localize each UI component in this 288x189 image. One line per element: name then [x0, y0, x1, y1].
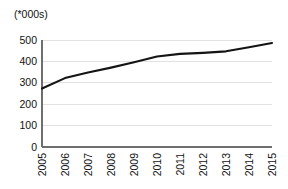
- y-axis-tick-label: 100: [19, 119, 37, 131]
- x-axis-tick-label: 2008: [105, 153, 117, 177]
- y-axis-tick-labels: 0100200300400500: [19, 34, 37, 153]
- x-axis-tick-label: 2014: [243, 153, 255, 177]
- x-axis-tick-label: 2015: [266, 153, 278, 177]
- y-axis-tick-label: 200: [19, 98, 37, 110]
- series-line-path: [42, 43, 272, 89]
- x-axis-tick-label: 2010: [151, 153, 163, 177]
- x-axis-tick-label: 2009: [128, 153, 140, 177]
- x-axis-tick-label: 2011: [174, 153, 186, 176]
- x-axis-tick-label: 2005: [36, 153, 48, 177]
- line-chart-plot: 0100200300400500 20052006200720082009201…: [0, 0, 288, 189]
- y-axis-tick-label: 0: [31, 141, 37, 153]
- x-axis-tick-label: 2013: [220, 153, 232, 177]
- y-axis-tick-label: 500: [19, 34, 37, 46]
- x-axis-tick-label: 2007: [82, 153, 94, 177]
- gridlines: [42, 40, 272, 126]
- y-axis-tick-label: 300: [19, 76, 37, 88]
- x-axis-tick-label: 2012: [197, 153, 209, 177]
- chart-container: (*000s) 0100200300400500 200520062007200…: [0, 0, 288, 189]
- data-series-group: [42, 43, 272, 89]
- x-axis-tick-label: 2006: [59, 153, 71, 177]
- x-axis-tick-labels: 2005200620072008200920102011201220132014…: [36, 153, 278, 177]
- y-axis-tick-label: 400: [19, 55, 37, 67]
